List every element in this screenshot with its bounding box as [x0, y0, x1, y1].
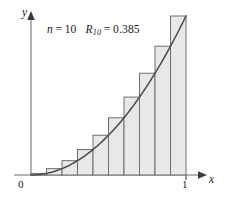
origin-label: 0	[18, 178, 24, 190]
annotation-r-subscript: 10	[93, 28, 101, 37]
riemann-rectangle	[171, 16, 187, 175]
riemann-rectangles	[31, 16, 186, 175]
annotation-text: n = 10R10 = 0.385	[47, 23, 140, 37]
x-axis-arrowhead	[198, 171, 207, 179]
riemann-rectangle	[78, 150, 94, 175]
riemann-rectangle	[140, 73, 156, 175]
riemann-rectangle	[93, 135, 109, 175]
riemann-rectangle	[155, 46, 171, 175]
y-axis-arrowhead	[27, 11, 35, 20]
x-axis-label: x	[209, 173, 214, 185]
x-tick-label-one: 1	[182, 178, 188, 190]
annotation-n-value: 10	[65, 23, 77, 35]
annotation-r-value: 0.385	[113, 23, 140, 35]
annotation-r-symbol: R	[86, 23, 93, 35]
y-axis-label: y	[22, 6, 27, 18]
